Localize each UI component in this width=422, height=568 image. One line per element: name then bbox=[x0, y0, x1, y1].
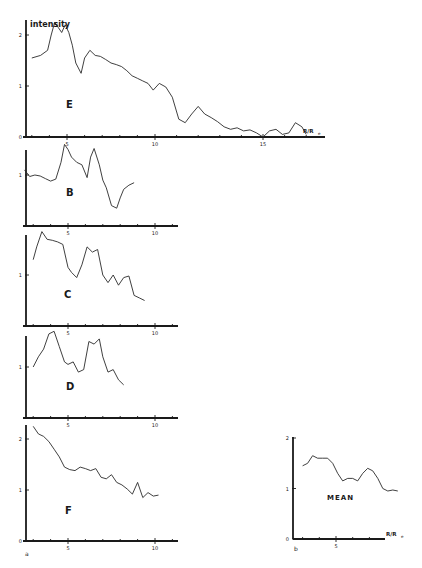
panel-mean: 5012MEAN bbox=[286, 435, 398, 549]
panel-b: 5101B bbox=[19, 144, 178, 236]
panel-f: 510012F bbox=[19, 425, 178, 551]
x-axis-title-e: R/R bbox=[303, 128, 314, 134]
y-tick-label: 2 bbox=[286, 435, 289, 441]
x-tick-label: 5 bbox=[66, 545, 69, 551]
x-tick-label: 10 bbox=[152, 141, 158, 147]
y-tick-label: 1 bbox=[19, 364, 22, 370]
x-tick-label: 5 bbox=[66, 230, 69, 236]
data-curve-f bbox=[33, 426, 158, 497]
data-curve-e bbox=[32, 22, 306, 137]
y-tick-label: 1 bbox=[19, 172, 22, 178]
panel-e: 51015012E bbox=[19, 20, 325, 147]
x-tick-label: 10 bbox=[152, 545, 158, 551]
panel-c: 5101C bbox=[19, 232, 178, 336]
y-tick-label: 1 bbox=[19, 487, 22, 493]
y-tick-label: 1 bbox=[19, 272, 22, 278]
x-axis-subscript-mean: e bbox=[401, 534, 404, 539]
y-tick-label: 0 bbox=[286, 536, 289, 542]
x-axis-subscript-e: e bbox=[318, 131, 321, 136]
y-tick-label: 1 bbox=[19, 83, 22, 89]
data-curve-b bbox=[25, 144, 135, 208]
panel-label-b: B bbox=[66, 187, 74, 198]
panel-label-d: D bbox=[66, 381, 74, 392]
x-tick-label: 5 bbox=[334, 543, 337, 549]
y-axis-title: intensity bbox=[30, 20, 71, 29]
y-tick-label: 1 bbox=[286, 486, 289, 492]
x-tick-label: 15 bbox=[260, 141, 266, 147]
sublabel-b: b bbox=[294, 545, 298, 552]
panel-label-mean: MEAN bbox=[327, 494, 354, 502]
figure: 51015012E5101B5101C5101D510012F5012MEANi… bbox=[0, 0, 422, 568]
sublabel-a: a bbox=[25, 550, 29, 557]
x-tick-label: 10 bbox=[152, 230, 158, 236]
y-tick-label: 2 bbox=[19, 32, 22, 38]
x-axis-title-mean: R/R bbox=[386, 531, 397, 537]
x-tick-label: 5 bbox=[66, 330, 69, 336]
x-tick-label: 10 bbox=[152, 422, 158, 428]
panel-label-e: E bbox=[66, 99, 73, 110]
panel-label-c: C bbox=[64, 289, 71, 300]
x-tick-label: 10 bbox=[152, 330, 158, 336]
data-curve-c bbox=[33, 232, 144, 301]
data-curve-mean bbox=[303, 456, 398, 491]
y-tick-label: 0 bbox=[19, 538, 22, 544]
y-tick-label: 0 bbox=[19, 134, 22, 140]
data-curve-d bbox=[33, 331, 124, 385]
panel-label-f: F bbox=[65, 505, 72, 516]
x-tick-label: 5 bbox=[66, 422, 69, 428]
panel-d: 5101D bbox=[19, 331, 178, 428]
y-tick-label: 2 bbox=[19, 436, 22, 442]
